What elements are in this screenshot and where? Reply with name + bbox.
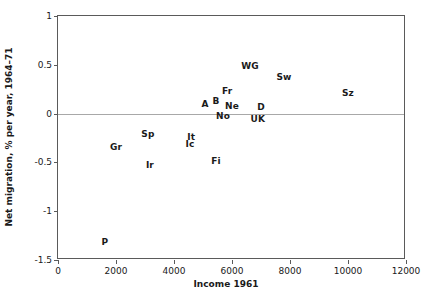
y-axis-tick <box>54 162 58 163</box>
x-axis-tick <box>348 260 349 264</box>
x-axis-tick-label: 10000 <box>334 267 363 276</box>
y-axis-tick <box>54 114 58 115</box>
data-point-label-fi: Fi <box>211 157 220 166</box>
y-axis-title: Net migration, % per year, 1964–71 <box>2 0 16 274</box>
data-point-label-sz: Sz <box>342 89 354 98</box>
y-axis-title-text: Net migration, % per year, 1964–71 <box>4 47 14 226</box>
data-point-label-d: D <box>257 102 265 111</box>
x-axis-tick-label: 0 <box>55 267 61 276</box>
data-point-label-b: B <box>213 96 220 105</box>
data-point-label-ne: Ne <box>225 101 239 110</box>
x-axis-tick <box>290 260 291 264</box>
y-axis-tick-label: 0.5 <box>38 60 52 69</box>
x-axis-tick-label: 6000 <box>221 267 244 276</box>
data-point-label-sw: Sw <box>276 72 291 81</box>
y-axis-tick-label: -0.5 <box>34 158 52 167</box>
plot-area: 10.50-0.5-1-1.5 020004000600080001000012… <box>57 15 405 259</box>
y-axis-tick-label: 1 <box>46 12 52 21</box>
data-point-label-a: A <box>201 99 208 108</box>
zero-reference-line <box>58 114 404 115</box>
y-axis-tick <box>54 211 58 212</box>
x-axis-tick <box>174 260 175 264</box>
y-axis-tick-label: -1.5 <box>34 256 52 265</box>
x-axis-tick-label: 4000 <box>163 267 186 276</box>
y-axis-tick <box>54 16 58 17</box>
y-axis-tick-label: -1 <box>43 207 52 216</box>
x-axis-tick <box>406 260 407 264</box>
y-axis-tick <box>54 65 58 66</box>
x-axis-tick-label: 12000 <box>392 267 421 276</box>
x-axis-tick-label: 8000 <box>279 267 302 276</box>
x-axis-title: Income 1961 <box>0 279 424 289</box>
x-axis-tick <box>116 260 117 264</box>
scatter-chart-figure: Net migration, % per year, 1964–71 10.50… <box>0 0 424 299</box>
x-axis-tick <box>58 260 59 264</box>
y-axis-tick-label: 0 <box>46 109 52 118</box>
data-point-label-fr: Fr <box>222 87 232 96</box>
data-point-label-no: No <box>216 111 230 120</box>
data-point-label-gr: Gr <box>110 142 122 151</box>
data-point-label-ir: Ir <box>146 161 154 170</box>
data-point-label-uk: UK <box>251 115 265 124</box>
data-point-label-sp: Sp <box>141 130 154 139</box>
data-point-label-wg: WG <box>241 61 259 70</box>
x-axis-tick-label: 2000 <box>105 267 128 276</box>
x-axis-tick <box>232 260 233 264</box>
x-axis-title-text: Income 1961 <box>194 279 259 289</box>
data-point-label-ic: Ic <box>185 139 194 148</box>
data-point-label-p: P <box>102 238 109 247</box>
